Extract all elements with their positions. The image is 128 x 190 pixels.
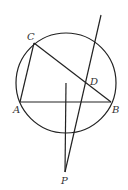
line-pd <box>65 15 101 172</box>
line-perpendicular <box>65 83 66 172</box>
label-a: A <box>12 104 20 115</box>
label-c: C <box>27 31 35 42</box>
label-p: P <box>60 175 68 186</box>
label-d: D <box>89 76 98 87</box>
label-b: B <box>111 104 119 115</box>
segment-cb <box>34 43 111 102</box>
geometry-diagram: C A B D P <box>0 0 128 190</box>
